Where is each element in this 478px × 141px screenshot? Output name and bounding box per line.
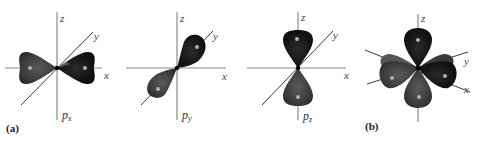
- x-axis-label: x: [221, 70, 227, 82]
- pz-orbital-diagram: z y x pz: [247, 11, 349, 124]
- lobe-center-dot: [156, 87, 160, 91]
- z-axis-label: z: [179, 12, 185, 24]
- p-orbitals-figure: z y x px z y x py z y x pz: [0, 0, 478, 141]
- combined-orbitals-diagram: z y x: [365, 12, 470, 122]
- lobe-center-dot: [295, 37, 299, 41]
- z-axis-label: z: [420, 12, 426, 24]
- lobe-center-dot: [443, 74, 447, 78]
- nucleus-dot: [416, 66, 421, 71]
- py-positive-lobe: [177, 35, 206, 68]
- lobe-center-dot: [83, 66, 87, 70]
- nucleus-dot: [175, 66, 179, 70]
- panel-label-a: (a): [6, 122, 19, 135]
- panel-label-b: (b): [365, 120, 379, 133]
- z-axis-label: z: [59, 12, 65, 24]
- px-positive-lobe: [57, 52, 95, 84]
- px-label: px: [61, 108, 72, 123]
- y-axis-label: y: [93, 30, 99, 42]
- lobe-center-dot: [416, 38, 420, 42]
- lobe-center-dot: [417, 95, 421, 99]
- lobe-center-dot: [195, 45, 199, 49]
- py-orbital-diagram: z y x py: [126, 12, 227, 123]
- lobe-center-dot: [296, 95, 300, 99]
- py-negative-lobe: [147, 68, 177, 98]
- px-negative-lobe: [19, 52, 57, 84]
- pz-label: pz: [302, 109, 313, 124]
- nucleus-dot: [296, 66, 300, 70]
- lobe-center-dot: [28, 66, 32, 70]
- y-axis-label: y: [212, 30, 218, 42]
- nucleus-dot: [55, 66, 59, 70]
- py-label: py: [181, 108, 192, 123]
- px-orbital-diagram: z y x px: [5, 12, 109, 123]
- pz-positive-lobe: [283, 30, 313, 68]
- lobe-center-dot: [390, 76, 394, 80]
- pz-negative-lobe: [283, 68, 313, 106]
- x-axis-label: x: [343, 69, 349, 81]
- x-axis-label: x: [103, 69, 109, 81]
- x-axis-label: x: [463, 83, 469, 95]
- y-axis-label: y: [332, 29, 338, 41]
- y-axis-label: y: [463, 55, 469, 67]
- z-axis-label: z: [300, 11, 306, 23]
